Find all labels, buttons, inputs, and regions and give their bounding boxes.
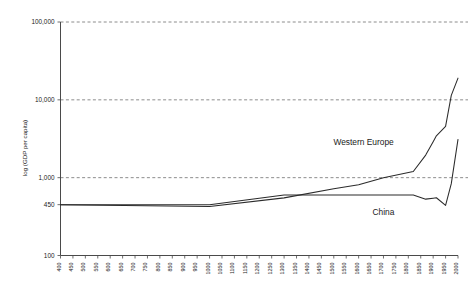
x-tick-label: 750 xyxy=(142,263,148,272)
x-tick-label: 1300 xyxy=(279,263,285,275)
x-tick-label: 950 xyxy=(192,263,198,272)
x-tick-label: 1950 xyxy=(441,263,447,275)
y-tick-label: 1,000 xyxy=(39,174,55,181)
x-tick-label: 850 xyxy=(167,263,173,272)
x-tick-label: 1600 xyxy=(354,263,360,275)
x-tick-label: 1800 xyxy=(403,263,409,275)
series-line xyxy=(61,78,459,206)
x-tick-label: 450 xyxy=(68,263,74,272)
x-tick-label: 550 xyxy=(93,263,99,272)
x-tick-label: 1850 xyxy=(416,263,422,275)
x-tick-label: 400 xyxy=(56,263,62,272)
y-axis: 100,00010,0001,000450100 xyxy=(31,18,60,258)
x-tick-label: 1150 xyxy=(242,263,248,275)
y-tick-label: 450 xyxy=(44,201,55,208)
y-tick-label: 100,000 xyxy=(31,18,55,25)
x-tick-label: 600 xyxy=(105,263,111,272)
y-tick-label: 100 xyxy=(44,252,55,259)
x-tick-label: 1550 xyxy=(341,263,347,275)
x-tick-label: 700 xyxy=(130,263,136,272)
x-tick-label: 1750 xyxy=(391,263,397,275)
gridlines xyxy=(61,22,469,178)
x-tick-label: 2000 xyxy=(453,263,459,275)
x-tick-label: 1500 xyxy=(329,263,335,275)
x-axis: 4004505005506006507007508008509009501000… xyxy=(56,256,460,275)
series-label: China xyxy=(373,207,395,217)
gdp-per-capita-chart: 100,00010,0001,000450100 400450500550600… xyxy=(0,0,471,293)
x-tick-label: 500 xyxy=(80,263,86,272)
series-group xyxy=(61,78,459,206)
series-label: Western Europe xyxy=(333,137,394,147)
y-tick-label: 10,000 xyxy=(35,96,55,103)
x-tick-label: 1700 xyxy=(378,263,384,275)
x-tick-label: 1450 xyxy=(316,263,322,275)
x-tick-label: 1100 xyxy=(229,263,235,275)
x-tick-label: 1250 xyxy=(267,263,273,275)
y-axis-title: log (GDP per capita) xyxy=(21,120,28,176)
chart-canvas: 100,00010,0001,000450100 400450500550600… xyxy=(0,0,471,293)
x-tick-label: 1900 xyxy=(428,263,434,275)
x-tick-label: 1400 xyxy=(304,263,310,275)
series-line xyxy=(61,139,459,205)
x-tick-label: 1000 xyxy=(205,263,211,275)
x-tick-group: 4004505005506006507007508008509009501000… xyxy=(56,256,460,275)
x-tick-label: 1350 xyxy=(292,263,298,275)
y-tick-group: 100,00010,0001,000450100 xyxy=(31,18,60,258)
x-tick-label: 1650 xyxy=(366,263,372,275)
x-tick-label: 1200 xyxy=(254,263,260,275)
x-tick-label: 650 xyxy=(118,263,124,272)
x-tick-label: 800 xyxy=(155,263,161,272)
x-tick-label: 900 xyxy=(180,263,186,272)
x-tick-label: 1050 xyxy=(217,263,223,275)
